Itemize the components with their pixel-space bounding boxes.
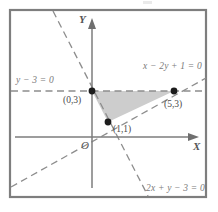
geometry-figure: y − 3 = 0 x − 2y + 1 = 0 2x + y − 3 = 0 … [0,0,218,212]
vertex-0-3-label: (0,3) [63,96,81,106]
vertex-1-1-label: (1,1) [113,125,131,135]
x-axis-label: X [193,141,200,152]
line-x-2y-1-label: x − 2y + 1 = 0 [143,62,202,72]
figure-canvas [0,0,218,212]
vertex-1-1-dot [105,119,112,126]
vertex-5-3-dot [171,88,178,95]
y-axis-arrow-icon [88,18,96,29]
vertex-0-3-dot [89,88,96,95]
y-axis-label: Y [79,14,86,25]
origin-label: O [81,140,89,151]
line-y-3-label: y − 3 = 0 [16,76,54,86]
feasible-region [92,91,174,122]
line-2x-y-3-label: 2x + y − 3 = 0 [146,184,205,194]
vertex-5-3-label: (5,3) [164,100,182,110]
